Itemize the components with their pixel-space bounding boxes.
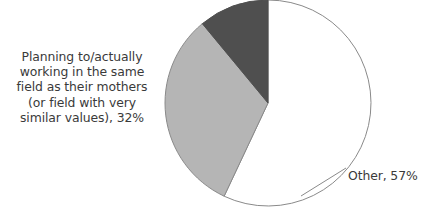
pie-chart-figure: Planning to/actually working in the same… — [0, 0, 435, 219]
pie-label-other: Other, 57% — [348, 168, 434, 183]
pie-slices — [165, 0, 371, 206]
pie-label-same-field-as-mothers: Planning to/actually working in the same… — [6, 49, 158, 125]
